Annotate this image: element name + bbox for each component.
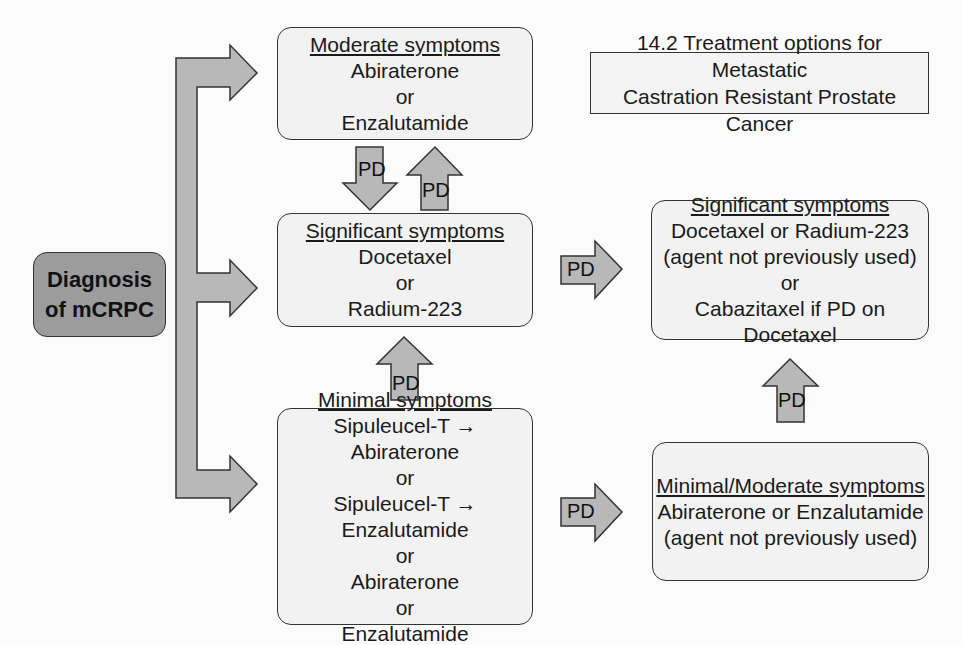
treatment-line: Enzalutamide bbox=[341, 621, 468, 645]
diagnosis-line2: of mCRPC bbox=[45, 295, 154, 325]
figure-title: 14.2 Treatment options for Metastatic Ca… bbox=[590, 52, 929, 114]
pd-label: PD bbox=[422, 179, 450, 202]
treatment-line: or bbox=[396, 465, 415, 491]
treatment-line: Cabazitaxel if PD on Docetaxel bbox=[652, 296, 928, 348]
treatment-line: Enzalutamide bbox=[341, 110, 468, 136]
treatment-line: or bbox=[396, 84, 415, 110]
box-heading: Moderate symptoms bbox=[310, 32, 500, 58]
moderate-symptoms-box: Moderate symptoms Abiraterone or Enzalut… bbox=[277, 27, 533, 140]
treatment-line: (agent not previously used) bbox=[664, 525, 917, 551]
treatment-line: Radium-223 bbox=[348, 296, 462, 322]
title-line2: Castration Resistant Prostate Cancer bbox=[591, 83, 928, 137]
pd-label: PD bbox=[358, 158, 386, 181]
diagnosis-box: Diagnosis of mCRPC bbox=[33, 252, 166, 337]
treatment-line: or bbox=[396, 270, 415, 296]
treatment-line: Docetaxel or Radium-223 bbox=[671, 218, 909, 244]
box-heading: Significant symptoms bbox=[306, 218, 504, 244]
treatment-line: or bbox=[396, 543, 415, 569]
minimal-symptoms-box: Minimal symptoms Sipuleucel-T → Abirater… bbox=[277, 408, 533, 625]
treatment-line: Abiraterone bbox=[351, 58, 460, 84]
minimal-next-box: Minimal/Moderate symptoms Abiraterone or… bbox=[652, 442, 929, 581]
pd-label: PD bbox=[778, 389, 806, 412]
treatment-line: Sipuleucel-T → Enzalutamide bbox=[278, 491, 532, 543]
significant-next-box: Significant symptoms Docetaxel or Radium… bbox=[651, 200, 929, 340]
branch-arrows bbox=[176, 45, 257, 512]
treatment-line: or bbox=[781, 270, 800, 296]
significant-symptoms-box: Significant symptoms Docetaxel or Radium… bbox=[277, 213, 533, 327]
treatment-line: Abiraterone bbox=[351, 569, 460, 595]
box-heading: Minimal/Moderate symptoms bbox=[656, 473, 924, 499]
box-heading: Significant symptoms bbox=[691, 192, 889, 218]
pd-label: PD bbox=[567, 500, 595, 523]
treatment-line: Abiraterone or Enzalutamide bbox=[657, 499, 923, 525]
treatment-line: Docetaxel bbox=[358, 244, 451, 270]
treatment-line: Sipuleucel-T → Abiraterone bbox=[278, 413, 532, 465]
diagnosis-line1: Diagnosis bbox=[47, 265, 152, 295]
treatment-line: or bbox=[396, 595, 415, 621]
pd-label: PD bbox=[567, 258, 595, 281]
treatment-line: (agent not previously used) bbox=[663, 244, 916, 270]
title-line1: 14.2 Treatment options for Metastatic bbox=[591, 29, 928, 83]
box-heading: Minimal symptoms bbox=[318, 387, 492, 413]
